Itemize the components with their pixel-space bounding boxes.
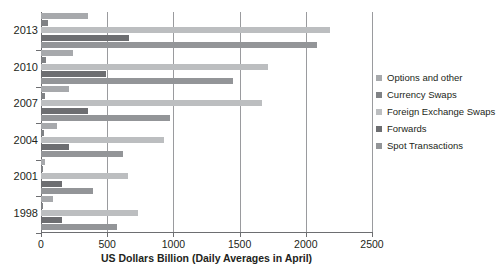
- legend-label: Currency Swaps: [387, 90, 457, 100]
- legend-swatch-icon: [376, 143, 382, 149]
- y-axis-category-label: 2013: [2, 24, 38, 36]
- bar: [41, 13, 88, 19]
- legend-item[interactable]: Options and other: [376, 69, 501, 86]
- legend-swatch-icon: [376, 109, 382, 115]
- gridline: [372, 12, 373, 232]
- y-axis-category-label: 2004: [2, 134, 38, 146]
- legend: Options and otherCurrency SwapsForeign E…: [376, 69, 501, 154]
- bar: [41, 196, 53, 202]
- x-axis-tick: [372, 233, 373, 237]
- y-axis-category-label: 2010: [2, 61, 38, 73]
- bar: [41, 173, 128, 179]
- legend-swatch-icon: [376, 126, 382, 132]
- bar: [41, 137, 164, 143]
- bar: [41, 50, 73, 56]
- x-axis-tick-label: 2000: [294, 238, 317, 250]
- legend-item[interactable]: Currency Swaps: [376, 86, 501, 103]
- legend-label: Forwards: [387, 124, 427, 134]
- legend-item[interactable]: Foreign Exchange Swaps: [376, 103, 501, 120]
- bar: [41, 188, 93, 194]
- bar-chart: 201320102007200420011998 050010001500200…: [0, 0, 501, 271]
- bar: [41, 27, 330, 33]
- y-axis-labels: 201320102007200420011998: [0, 0, 38, 271]
- bar: [41, 123, 57, 129]
- x-axis-tick-label: 1000: [162, 238, 185, 250]
- bar: [41, 151, 123, 157]
- bar: [41, 100, 262, 106]
- bar: [41, 35, 129, 41]
- x-axis-tick: [41, 233, 42, 237]
- bar: [41, 71, 106, 77]
- bar: [41, 115, 170, 121]
- legend-item[interactable]: Forwards: [376, 120, 501, 137]
- x-axis-tick-label: 500: [98, 238, 116, 250]
- legend-label: Options and other: [387, 73, 463, 83]
- x-axis-tick-label: 1500: [228, 238, 251, 250]
- x-axis-tick: [173, 233, 174, 237]
- bar: [41, 144, 69, 150]
- x-axis-tick-label: 2500: [360, 238, 383, 250]
- bar: [41, 42, 317, 48]
- legend-item[interactable]: Spot Transactions: [376, 137, 501, 154]
- bar: [41, 217, 62, 223]
- bar: [41, 20, 48, 26]
- legend-label: Foreign Exchange Swaps: [387, 107, 495, 117]
- x-axis-tick: [240, 233, 241, 237]
- bar: [41, 93, 45, 99]
- bar: [41, 181, 62, 187]
- legend-swatch-icon: [376, 92, 382, 98]
- bar: [41, 64, 268, 70]
- bar: [41, 203, 43, 209]
- bar: [41, 159, 45, 165]
- bar: [41, 224, 117, 230]
- x-axis-tick-label: 0: [38, 238, 44, 250]
- y-axis-category-label: 2007: [2, 97, 38, 109]
- bar: [41, 57, 46, 63]
- bar: [41, 108, 88, 114]
- bar: [41, 86, 69, 92]
- bar: [41, 130, 44, 136]
- bar: [41, 210, 138, 216]
- x-axis-line: [41, 232, 373, 233]
- y-axis-category-label: 2001: [2, 170, 38, 182]
- x-axis-title: US Dollars Billion (Daily Averages in Ap…: [41, 252, 372, 264]
- bar: [41, 78, 233, 84]
- y-axis-category-label: 1998: [2, 207, 38, 219]
- legend-label: Spot Transactions: [387, 141, 463, 151]
- bar: [41, 166, 43, 172]
- x-axis-tick: [306, 233, 307, 237]
- legend-swatch-icon: [376, 75, 382, 81]
- x-axis-tick: [107, 233, 108, 237]
